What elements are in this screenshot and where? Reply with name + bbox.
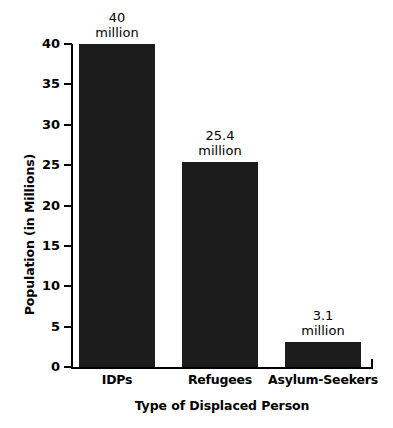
bar-value-label: 25.4million [160,128,280,158]
y-axis-tick-label: 10 [0,279,60,292]
y-axis-tick [64,164,72,166]
bar-value-number: 3.1 [263,308,383,323]
y-axis-tick-label: 15 [0,239,60,252]
y-axis-tick-label: 35 [0,77,60,90]
y-axis-tick [64,245,72,247]
y-axis-tick-label: 5 [0,320,60,333]
bar-chart: Population (in Millions) 051015202530354… [0,0,393,428]
bar-value-label: 40million [57,10,177,40]
y-axis-tick [64,285,72,287]
bar-refugees [182,162,258,367]
y-axis-tick-label: 20 [0,199,60,212]
x-axis-title: Type of Displaced Person [71,398,373,413]
bar-idps [79,44,155,367]
y-axis-tick [64,366,72,368]
x-axis-end-tick [371,359,373,369]
y-axis-tick-label: 30 [0,118,60,131]
bar-value-number: 40 [57,10,177,25]
bar-value-unit: million [160,143,280,158]
y-axis-tick-label: 25 [0,158,60,171]
bar-value-label: 3.1million [263,308,383,338]
x-axis-category-label: Asylum-Seekers [261,372,385,387]
y-axis-tick-label: 0 [0,360,60,373]
y-axis-tick-label: 40 [0,37,60,50]
bar-value-number: 25.4 [160,128,280,143]
x-axis-line [71,367,373,369]
y-axis-tick [64,326,72,328]
bar-value-unit: million [263,323,383,338]
y-axis-tick [64,43,72,45]
y-axis-tick [64,83,72,85]
y-axis-tick [64,205,72,207]
bar-asylum-seekers [285,342,361,367]
bar-value-unit: million [57,25,177,40]
y-axis-tick [64,124,72,126]
